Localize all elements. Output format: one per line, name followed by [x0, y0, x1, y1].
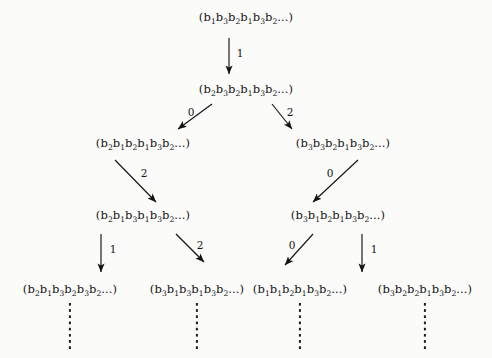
- continuation-dots: [424, 303, 426, 349]
- tree-node: (b3b3b2b1b3b2...): [296, 138, 390, 150]
- edge-label: 1: [371, 244, 378, 255]
- tree-node: (b1b1b2b1b3b2...): [253, 284, 347, 296]
- tree-node: (b2b1b2b1b3b2...): [96, 138, 190, 150]
- tree-edge-arrow: [178, 104, 212, 129]
- tree-node: (b2b1b3b2b3b2...): [23, 284, 117, 296]
- continuation-dots: [196, 303, 198, 349]
- continuation-dots: [69, 303, 71, 349]
- edge-label: 2: [141, 168, 148, 179]
- edge-label: 0: [188, 107, 195, 118]
- tree-node: (b1b3b2b1b3b2...): [199, 12, 293, 24]
- tree-edge-arrow: [115, 160, 156, 202]
- edge-label: 1: [237, 48, 244, 59]
- tree-node: (b3b1b3b1b3b2...): [150, 284, 244, 296]
- tree-node: (b2b1b3b1b3b2...): [96, 210, 190, 222]
- edge-label: 0: [289, 240, 296, 251]
- edge-label: 0: [327, 168, 334, 179]
- tree-node: (b2b3b2b1b3b2...): [199, 84, 293, 96]
- continuation-dots: [299, 303, 301, 349]
- tree-diagram-figure: (b1b3b2b1b3b2...)(b2b3b2b1b3b2...)(b2b1b…: [0, 0, 492, 358]
- edges-group: [101, 38, 362, 272]
- tree-node: (b3b1b2b1b3b2...): [291, 210, 385, 222]
- edge-label: 1: [110, 244, 117, 255]
- tree-node: (b3b2b2b1b3b2...): [378, 284, 472, 296]
- tree-edge-arrow: [313, 160, 358, 202]
- edge-layer: [0, 0, 492, 358]
- edge-label: 2: [287, 107, 294, 118]
- edge-label: 2: [197, 240, 204, 251]
